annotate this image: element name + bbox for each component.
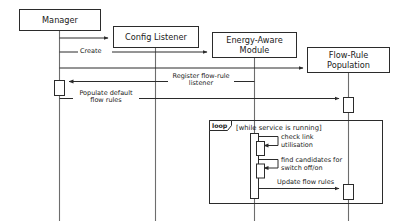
message-label-populate-line2: flow rules — [90, 96, 122, 104]
message-label-find-candidates-line1: find candidates for — [281, 156, 342, 164]
message-update-flow-rules[interactable]: Update flow rules — [259, 176, 341, 189]
participant-label-config-listener: Config Listener — [125, 32, 187, 42]
loop-operator-label: loop — [212, 122, 228, 130]
sequence-diagram-svg: loop [while service is running] Manager … — [0, 0, 405, 221]
message-label-update-flow-rules: Update flow rules — [277, 178, 335, 186]
participant-config-listener[interactable]: Config Listener — [114, 27, 199, 48]
message-label-create: Create — [80, 47, 102, 55]
participant-energy-aware-module[interactable]: Energy-Aware Module — [213, 33, 297, 58]
participant-manager[interactable]: Manager — [20, 10, 101, 31]
activation-energy-aware-module-self-2 — [257, 164, 265, 178]
message-label-find-candidates-line2: switch off/on — [281, 164, 323, 172]
message-register-flow-rule-listener[interactable]: Register flow-rule listener — [69, 71, 255, 87]
loop-guard-label: [while service is running] — [236, 124, 322, 132]
participant-label-energy-aware-module-line2: Module — [240, 45, 270, 55]
message-find-candidates[interactable]: find candidates for switch off/on — [257, 156, 343, 178]
participant-label-flow-rule-population-line1: Flow-Rule — [329, 50, 368, 60]
activation-manager — [55, 81, 65, 96]
participant-flow-rule-population[interactable]: Flow-Rule Population — [308, 48, 390, 73]
message-label-check-link-line2: utilisation — [281, 141, 313, 149]
participant-label-manager: Manager — [42, 15, 79, 25]
participant-label-flow-rule-population-line2: Population — [327, 60, 370, 70]
message-label-check-link-line1: check link — [281, 133, 314, 141]
message-check-link-utilisation[interactable]: check link utilisation — [257, 133, 314, 156]
activation-energy-aware-module-self-1 — [257, 142, 265, 156]
participant-label-energy-aware-module-line1: Energy-Aware — [226, 35, 283, 45]
message-populate-default-flow-rules[interactable]: Populate default flow rules — [60, 88, 340, 104]
activation-flow-rule-population-1 — [344, 98, 354, 113]
message-label-register-line2: listener — [189, 79, 214, 87]
sequence-diagram-canvas: loop [while service is running] Manager … — [0, 0, 405, 221]
activation-flow-rule-population-2 — [344, 185, 354, 200]
